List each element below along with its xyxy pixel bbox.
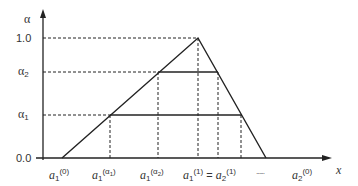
- x-tick-a2-0: a2(0): [292, 168, 312, 183]
- x-tick-a1-alpha1: a1(α1): [92, 168, 116, 183]
- y-tick-alpha2: α2: [18, 65, 29, 79]
- y-axis-label: α: [24, 13, 30, 25]
- x-axis-label: x: [336, 164, 341, 176]
- x-tick-a1-1-eq-a2-1: a1(1) = a2(1): [183, 168, 236, 183]
- x-tick-ellipsis: ······: [256, 170, 264, 177]
- y-axis-arrowhead: [40, 9, 46, 18]
- x-axis-arrowhead: [322, 155, 332, 161]
- x-tick-a1-0: a1(0): [49, 168, 69, 183]
- y-tick-alpha1: α1: [18, 108, 29, 122]
- y-tick-0: 0.0: [16, 153, 31, 164]
- x-tick-a1-alpha2: a1(α2): [140, 168, 164, 183]
- fuzzy-diagram-canvas: [0, 0, 358, 186]
- y-tick-1: 1.0: [16, 33, 31, 44]
- membership-triangle: [62, 38, 266, 158]
